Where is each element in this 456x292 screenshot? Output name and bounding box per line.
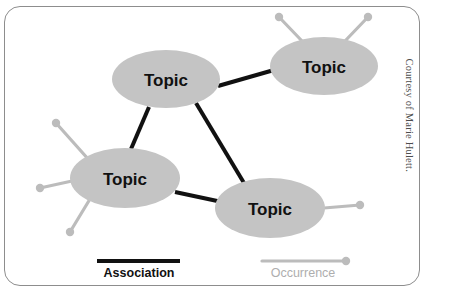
legend-item-occurrence: Occurrence — [262, 257, 350, 280]
occurrence-line-top-right-b — [345, 13, 372, 41]
occurrence-line-bottom-right — [324, 201, 364, 209]
legend-item-association: Association — [97, 261, 180, 280]
occurrence-dot — [356, 201, 364, 209]
association-line-left-bottom — [175, 192, 222, 202]
topic-label: Topic — [144, 71, 188, 90]
topic-node-bottom[interactable]: Topic — [215, 178, 325, 238]
occurrence-dot — [275, 13, 283, 21]
legend-occurrence-dot — [342, 257, 350, 265]
figure-stage: Topic Topic Topic Topic Association Occu… — [0, 0, 456, 292]
occurrence-dot — [36, 184, 44, 192]
legend: Association Occurrence — [97, 257, 350, 280]
association-line-topleft-left — [131, 107, 149, 149]
occurrence-dot — [52, 119, 60, 127]
occurrence-line-left-lower — [66, 199, 90, 236]
topic-label: Topic — [302, 58, 346, 77]
occurrence-line-top-right-a — [275, 13, 302, 41]
occurrence-line-left-middle — [36, 181, 72, 192]
topic-label: Topic — [248, 200, 292, 219]
association-line-topleft-bottom — [196, 103, 244, 183]
topic-node-top-left[interactable]: Topic — [112, 50, 220, 108]
association-line-topleft-topright — [218, 70, 274, 86]
occurrence-dot — [364, 13, 372, 21]
topic-map-diagram: Topic Topic Topic Topic Association Occu… — [0, 0, 456, 292]
occurrence-dot — [66, 228, 74, 236]
topic-node-top-right[interactable]: Topic — [270, 37, 378, 95]
topic-label: Topic — [103, 170, 147, 189]
occurrence-line-left-upper — [52, 119, 89, 160]
credit-text: Courtesy of Marie Hulett. — [404, 59, 415, 209]
legend-occurrence-label: Occurrence — [271, 266, 336, 280]
topic-node-left[interactable]: Topic — [70, 148, 180, 208]
legend-association-label: Association — [104, 266, 175, 280]
